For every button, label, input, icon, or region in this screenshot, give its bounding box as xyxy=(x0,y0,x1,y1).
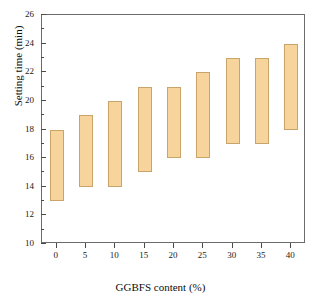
y-tick-minor xyxy=(41,143,44,144)
bar xyxy=(196,72,210,158)
x-tick-label: 15 xyxy=(139,251,148,260)
y-tick-minor xyxy=(41,114,44,115)
y-tick-label: 22 xyxy=(25,67,34,76)
x-tick-major xyxy=(85,243,86,248)
x-tick-major xyxy=(232,243,233,248)
y-tick-label: 24 xyxy=(25,39,34,48)
x-tick-major xyxy=(114,243,115,248)
y-tick-minor xyxy=(41,86,44,87)
y-tick-label: 10 xyxy=(25,239,34,248)
y-axis: 101214161820222426 xyxy=(41,14,42,243)
y-tick-major xyxy=(41,71,46,72)
x-tick-major xyxy=(290,243,291,248)
bar xyxy=(138,87,152,173)
bar xyxy=(226,58,240,144)
y-tick-minor xyxy=(41,171,44,172)
y-tick-major xyxy=(41,43,46,44)
x-tick-label: 25 xyxy=(198,251,207,260)
x-tick-label: 5 xyxy=(83,251,88,260)
x-tick-label: 10 xyxy=(110,251,119,260)
y-tick-label: 14 xyxy=(25,182,34,191)
bar xyxy=(50,130,64,202)
y-tick-major xyxy=(41,186,46,187)
x-tick-major xyxy=(261,243,262,248)
plot-area xyxy=(41,14,305,243)
y-tick-label: 18 xyxy=(25,125,34,134)
y-tick-minor xyxy=(41,200,44,201)
bar xyxy=(255,58,269,144)
y-tick-label: 12 xyxy=(25,210,34,219)
bar xyxy=(79,115,93,187)
x-tick-major xyxy=(56,243,57,248)
y-tick-minor xyxy=(41,229,44,230)
bar xyxy=(284,44,298,130)
y-tick-label: 20 xyxy=(25,96,34,105)
x-tick-label: 30 xyxy=(227,251,236,260)
y-tick-major xyxy=(41,14,46,15)
x-axis: 0510152025303540 xyxy=(41,243,305,244)
x-axis-title: GGBFS content (%) xyxy=(0,281,321,293)
y-tick-label: 16 xyxy=(25,153,34,162)
y-tick-major xyxy=(41,129,46,130)
bar xyxy=(167,87,181,159)
y-tick-major xyxy=(41,157,46,158)
bar xyxy=(108,101,122,187)
x-tick-label: 0 xyxy=(53,251,58,260)
y-axis-title: Setting time (min) xyxy=(12,0,24,146)
y-tick-label: 26 xyxy=(25,10,34,19)
x-tick-label: 20 xyxy=(169,251,178,260)
y-tick-major xyxy=(41,100,46,101)
y-tick-minor xyxy=(41,57,44,58)
x-tick-label: 35 xyxy=(257,251,266,260)
x-tick-label: 40 xyxy=(286,251,295,260)
x-tick-major xyxy=(173,243,174,248)
y-tick-minor xyxy=(41,28,44,29)
x-tick-major xyxy=(144,243,145,248)
chart-figure: 101214161820222426 0510152025303540 GGBF… xyxy=(0,0,321,304)
x-tick-major xyxy=(202,243,203,248)
y-tick-major xyxy=(41,214,46,215)
